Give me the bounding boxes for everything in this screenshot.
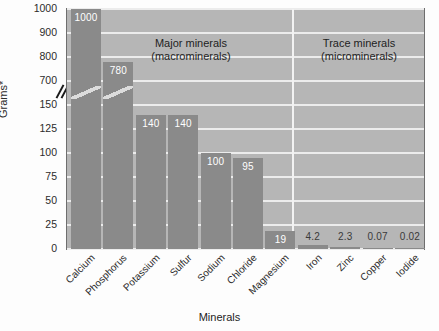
bar-value-label: 95 bbox=[242, 161, 254, 172]
mineral-bar-chart: Grams* 10009008007001501251007550250 100… bbox=[0, 0, 439, 331]
bar-value-label: 100 bbox=[207, 156, 224, 167]
bar-stub bbox=[298, 245, 328, 249]
bar: 2.3 bbox=[330, 247, 360, 249]
bar: 4.2 bbox=[298, 245, 328, 249]
y-tick-label: 1000 bbox=[34, 2, 57, 14]
bar-value-label: 140 bbox=[142, 118, 159, 129]
bar: 95 bbox=[233, 158, 263, 249]
y-tick-label: 100 bbox=[39, 146, 57, 158]
bar: 140 bbox=[168, 115, 198, 249]
plot-area: 100078014014010095194.22.30.070.02 Major… bbox=[66, 8, 425, 250]
bar-stub bbox=[330, 247, 360, 249]
bar-axis-break bbox=[103, 86, 133, 99]
y-tick-label: 25 bbox=[45, 218, 57, 230]
y-tick-label: 800 bbox=[39, 50, 57, 62]
section-label-major: Major minerals (macrominerals) bbox=[91, 37, 291, 63]
bar-stub bbox=[395, 248, 425, 249]
bar: 140 bbox=[136, 115, 166, 249]
section-label-major-line1: Major minerals bbox=[91, 37, 291, 50]
gridline bbox=[67, 32, 424, 34]
y-tick-label: 75 bbox=[45, 170, 57, 182]
gridline bbox=[67, 8, 424, 10]
section-label-trace-line1: Trace minerals bbox=[295, 37, 423, 50]
section-label-trace-line2: (microminerals) bbox=[295, 50, 423, 63]
y-axis: Grams* 10009008007001501251007550250 bbox=[0, 0, 66, 258]
y-tick-label: 50 bbox=[45, 194, 57, 206]
x-axis-tick-labels: CalciumPhosphorusPotassiumSulfurSodiumCh… bbox=[66, 252, 425, 312]
y-tick-label: 150 bbox=[39, 98, 57, 110]
bar-value-label: 780 bbox=[110, 65, 127, 76]
y-axis-title: Grams* bbox=[0, 81, 9, 118]
bar-stub bbox=[363, 248, 393, 249]
bar-value-label: 1000 bbox=[74, 12, 97, 23]
x-axis-title: Minerals bbox=[0, 311, 439, 323]
y-tick-label: 900 bbox=[39, 26, 57, 38]
section-divider bbox=[292, 9, 294, 249]
bar: 0.02 bbox=[395, 247, 425, 249]
bar: 780 bbox=[103, 62, 133, 249]
bar: 100 bbox=[201, 153, 231, 249]
bar-value-label: 0.07 bbox=[367, 231, 387, 242]
bar-value-label: 4.2 bbox=[306, 231, 321, 242]
y-tick-label: 700 bbox=[39, 74, 57, 86]
bar-value-label: 140 bbox=[175, 118, 192, 129]
bar: 19 bbox=[265, 231, 295, 249]
bar-value-label: 2.3 bbox=[338, 231, 353, 242]
bar: 0.07 bbox=[363, 247, 393, 249]
section-label-major-line2: (macrominerals) bbox=[91, 50, 291, 63]
bar-axis-break bbox=[71, 86, 101, 99]
y-tick-label: 125 bbox=[39, 122, 57, 134]
bar-value-label: 0.02 bbox=[400, 231, 420, 242]
section-label-trace: Trace minerals (microminerals) bbox=[295, 37, 423, 63]
bar-value-label: 19 bbox=[275, 234, 287, 245]
y-tick-label: 0 bbox=[51, 242, 57, 254]
